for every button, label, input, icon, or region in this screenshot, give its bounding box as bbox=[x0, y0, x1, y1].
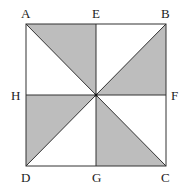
label-D: D bbox=[21, 170, 30, 185]
label-E: E bbox=[92, 6, 100, 21]
label-G: G bbox=[92, 170, 101, 185]
label-B: B bbox=[161, 6, 170, 21]
label-F: F bbox=[171, 88, 178, 103]
label-H: H bbox=[11, 88, 20, 103]
pinwheel-diagram: A E B H F D G C bbox=[0, 0, 183, 186]
label-A: A bbox=[21, 6, 31, 21]
label-C: C bbox=[161, 170, 170, 185]
center-point bbox=[95, 94, 98, 97]
